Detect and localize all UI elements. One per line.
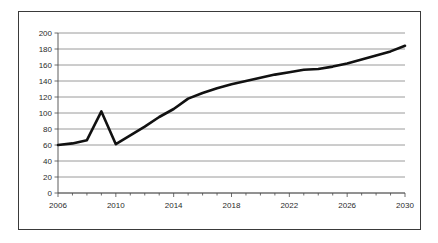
- y-tick-label: 40: [43, 157, 52, 166]
- y-tick-label: 140: [39, 77, 53, 86]
- x-tick-label: 2018: [223, 201, 241, 210]
- y-tick-label: 20: [43, 173, 52, 182]
- y-tick-label: 60: [43, 141, 52, 150]
- y-axis-group: [55, 33, 59, 193]
- series-line-1: [58, 46, 405, 145]
- y-tick-label: 120: [39, 93, 53, 102]
- x-tick-labels-group: 2006201020142018202220262030: [49, 201, 414, 210]
- data-series-group: [58, 46, 405, 145]
- x-tick-label: 2014: [165, 201, 183, 210]
- y-tick-label: 0: [48, 189, 53, 198]
- x-axis-group: [58, 193, 405, 197]
- x-tick-label: 2026: [338, 201, 356, 210]
- y-tick-label: 160: [39, 61, 53, 70]
- gridlines-group: [58, 33, 405, 193]
- x-tick-label: 2022: [280, 201, 298, 210]
- y-tick-labels-group: 020406080100120140160180200: [39, 29, 53, 198]
- y-tick-label: 180: [39, 45, 53, 54]
- y-tick-label: 80: [43, 125, 52, 134]
- line-chart: 020406080100120140160180200 200620102014…: [0, 0, 438, 243]
- y-tick-label: 200: [39, 29, 53, 38]
- y-tick-label: 100: [39, 109, 53, 118]
- x-tick-label: 2006: [49, 201, 67, 210]
- x-tick-label: 2010: [107, 201, 125, 210]
- x-tick-label: 2030: [396, 201, 414, 210]
